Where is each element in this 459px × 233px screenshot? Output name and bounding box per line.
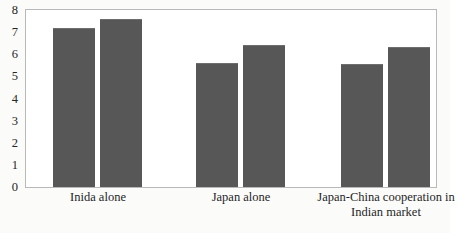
x-axis-label-0: Inida alone [23,190,173,205]
x-axis-label-line: Japan alone [166,190,316,205]
y-axis-tick-7: 7 [12,26,18,39]
x-axis-label-line: Indian market [296,205,459,220]
y-axis-tick-8: 8 [12,4,18,17]
y-axis-tick-3: 3 [12,114,18,127]
y-axis-tick-0: 0 [12,181,18,194]
x-axis-label-line: Japan-China cooperation in [296,190,459,205]
x-axis-category-labels: Inida aloneJapan aloneJapan-China cooper… [25,190,437,233]
x-axis-label-1: Japan alone [166,190,316,205]
y-axis-tick-6: 6 [12,48,18,61]
y-axis: 876543210 [0,0,22,233]
bar-inida-alone-2 [100,19,142,187]
y-axis-tick-5: 5 [12,70,18,83]
bar-inida-alone-1 [53,28,95,187]
bar-japan-alone-2 [243,45,285,187]
y-axis-tick-1: 1 [12,159,18,172]
x-axis-label-2: Japan-China cooperation inIndian market [296,190,459,220]
y-axis-tick-4: 4 [12,92,18,105]
bar-japan-china-cooperation-2 [388,47,430,187]
x-axis-label-line: Inida alone [23,190,173,205]
y-axis-tick-2: 2 [12,137,18,150]
bar-japan-china-cooperation-1 [341,64,383,187]
bars-layer [26,10,436,187]
bar-japan-alone-1 [196,63,238,187]
